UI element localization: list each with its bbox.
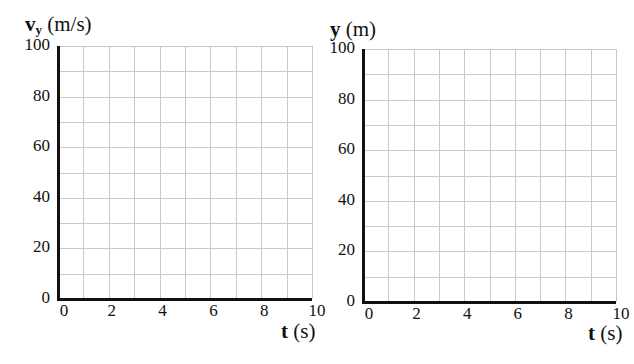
grid-line-vertical — [591, 49, 592, 302]
x-tick-label: 4 — [452, 305, 482, 322]
plot-area — [363, 49, 616, 302]
x-tick-label: 6 — [198, 302, 228, 319]
y-tick-label: 60 — [10, 137, 50, 154]
y-tick-label: 0 — [10, 289, 50, 306]
grid-line-horizontal — [363, 125, 616, 126]
x-axis-label: t (s) — [588, 321, 622, 346]
x-axis-line — [362, 301, 616, 304]
x-tick-label: 6 — [503, 305, 533, 322]
grid-line-horizontal — [363, 277, 616, 278]
grid-line-horizontal — [58, 198, 312, 199]
grid-line-horizontal — [58, 97, 312, 98]
x-tick-label: 0 — [49, 302, 79, 319]
grid-line-horizontal — [363, 74, 616, 75]
x-tick-label: 10 — [606, 305, 634, 322]
x-axis-label: t (s) — [281, 319, 315, 344]
grid-line-horizontal — [363, 302, 616, 303]
grid-line-vertical — [490, 49, 491, 302]
y-axis-unit: (m) — [346, 17, 376, 41]
grid-line-vertical — [464, 49, 465, 302]
y-tick-label: 100 — [10, 36, 50, 53]
grid-line-horizontal — [58, 173, 312, 174]
grid-line-horizontal — [363, 49, 616, 50]
grid-line-horizontal — [363, 201, 616, 202]
x-tick-label: 8 — [553, 305, 583, 322]
y-axis-label: y (m) — [330, 17, 376, 42]
grid-line-horizontal — [363, 150, 616, 151]
grid-line-horizontal — [363, 251, 616, 252]
y-axis-symbol: y — [330, 17, 341, 41]
y-axis-line — [362, 49, 365, 304]
grid-line-horizontal — [58, 223, 312, 224]
y-axis-unit: (m/s) — [47, 12, 91, 36]
grid-line-vertical — [363, 49, 364, 302]
x-axis-line — [57, 298, 312, 301]
velocity-chart: vy (m/s) t (s) 0204060801000246810 — [0, 0, 320, 364]
y-tick-label: 20 — [10, 238, 50, 255]
x-axis-symbol: t — [588, 321, 595, 345]
grid-line-horizontal — [363, 176, 616, 177]
y-tick-label: 40 — [10, 188, 50, 205]
x-axis-unit: (s) — [600, 321, 622, 345]
grid-line-vertical — [515, 49, 516, 302]
grid-line-horizontal — [58, 147, 312, 148]
grid-line-vertical — [616, 49, 617, 302]
grid-line-vertical — [388, 49, 389, 302]
y-tick-label: 80 — [315, 90, 355, 107]
y-axis-line — [57, 46, 60, 301]
grid-line-vertical — [414, 49, 415, 302]
grid-line-vertical — [540, 49, 541, 302]
y-axis-symbol: v — [25, 12, 36, 36]
grid-line-vertical — [312, 46, 313, 299]
grid-line-horizontal — [58, 274, 312, 275]
grid-line-horizontal — [58, 71, 312, 72]
grid-line-vertical — [565, 49, 566, 302]
x-tick-label: 0 — [354, 305, 384, 322]
grid-line-horizontal — [363, 226, 616, 227]
y-tick-label: 100 — [315, 39, 355, 56]
y-tick-label: 40 — [315, 191, 355, 208]
x-tick-label: 2 — [97, 302, 127, 319]
x-axis-symbol: t — [281, 319, 288, 343]
x-tick-label: 4 — [148, 302, 178, 319]
y-tick-label: 20 — [315, 241, 355, 258]
x-axis-unit: (s) — [293, 319, 315, 343]
grid-line-vertical — [439, 49, 440, 302]
grid-line-horizontal — [58, 46, 312, 47]
y-tick-label: 80 — [10, 87, 50, 104]
x-tick-label: 8 — [249, 302, 279, 319]
x-tick-label: 2 — [402, 305, 432, 322]
grid-line-horizontal — [58, 248, 312, 249]
grid-line-horizontal — [363, 100, 616, 101]
grid-line-horizontal — [58, 122, 312, 123]
y-tick-label: 60 — [315, 140, 355, 157]
x-tick-label: 10 — [302, 302, 332, 319]
